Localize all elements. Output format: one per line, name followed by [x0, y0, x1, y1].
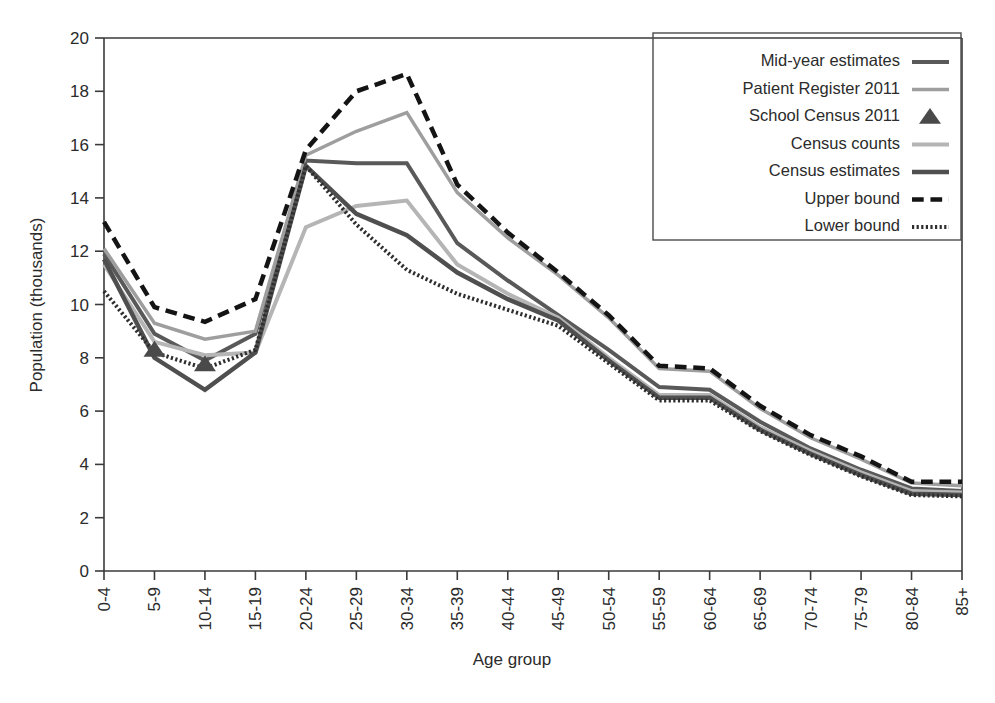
- y-tick-label: 2: [80, 509, 89, 528]
- y-tick-label: 0: [80, 562, 89, 581]
- legend-label: Mid-year estimates: [761, 51, 900, 69]
- x-tick-label: 10-14: [196, 587, 215, 630]
- legend-label: Census counts: [791, 134, 900, 152]
- x-tick-label: 50-54: [600, 587, 619, 630]
- x-tick-label: 70-74: [802, 587, 821, 630]
- y-tick-label: 18: [70, 82, 89, 101]
- x-tick-label: 85+: [953, 587, 972, 616]
- x-tick-label: 20-24: [297, 587, 316, 630]
- y-tick-label: 12: [70, 242, 89, 261]
- x-tick-label: 0-4: [95, 587, 114, 612]
- x-tick-label: 55-59: [650, 587, 669, 630]
- x-tick-label: 65-69: [751, 587, 770, 630]
- x-tick-label: 75-79: [852, 587, 871, 630]
- legend-label: School Census 2011: [749, 106, 900, 124]
- legend-label: Lower bound: [805, 216, 900, 234]
- x-tick-label: 80-84: [903, 587, 922, 630]
- x-tick-label: 25-29: [347, 587, 366, 630]
- y-tick-label: 6: [80, 402, 89, 421]
- x-tick-label: 30-34: [398, 587, 417, 630]
- population-line-chart: 02468101214161820 0-45-910-1415-1920-242…: [0, 0, 995, 703]
- x-tick-label: 60-64: [701, 587, 720, 630]
- x-tick-label: 40-44: [499, 587, 518, 630]
- x-tick-label: 5-9: [145, 587, 164, 612]
- x-axis-title: Age group: [473, 650, 551, 669]
- x-tick-label: 35-39: [448, 587, 467, 630]
- y-tick-label: 10: [70, 296, 89, 315]
- legend-label: Patient Register 2011: [743, 79, 900, 97]
- y-tick-label: 8: [80, 349, 89, 368]
- y-tick-label: 16: [70, 136, 89, 155]
- x-tick-label: 45-49: [549, 587, 568, 630]
- legend-label: Census estimates: [769, 161, 900, 179]
- y-tick-label: 14: [70, 189, 89, 208]
- y-axis-title: Population (thousands): [27, 218, 46, 393]
- legend-label: Upper bound: [805, 189, 900, 207]
- chart-figure: 02468101214161820 0-45-910-1415-1920-242…: [0, 0, 995, 703]
- y-tick-label: 4: [80, 455, 89, 474]
- x-tick-label: 15-19: [246, 587, 265, 630]
- y-tick-label: 20: [70, 29, 89, 48]
